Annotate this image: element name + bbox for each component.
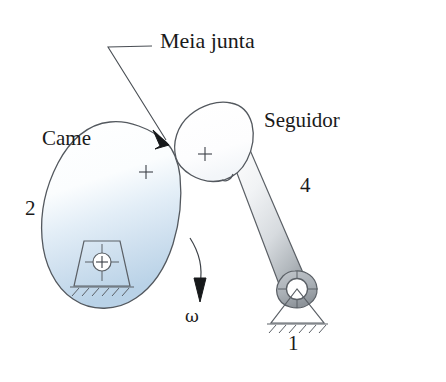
rotation-arrow — [190, 238, 206, 302]
link-number-1-label: 1 — [288, 333, 299, 354]
follower-group — [175, 102, 318, 308]
follower-head — [175, 102, 254, 181]
cam-label: Came — [42, 128, 91, 149]
cam-follower-diagram: Meia junta Came Seguidor 2 4 1 ω — [0, 0, 446, 382]
angular-velocity-label: ω — [185, 308, 199, 325]
rotation-arrow-curve — [190, 238, 201, 284]
link-number-4-label: 4 — [300, 175, 311, 196]
rotation-arrowhead-icon — [194, 278, 206, 302]
follower-label: Seguidor — [264, 110, 340, 131]
mechanism-drawing — [0, 0, 446, 382]
link-number-2-label: 2 — [25, 198, 36, 219]
half-joint-label: Meia junta — [160, 30, 255, 52]
